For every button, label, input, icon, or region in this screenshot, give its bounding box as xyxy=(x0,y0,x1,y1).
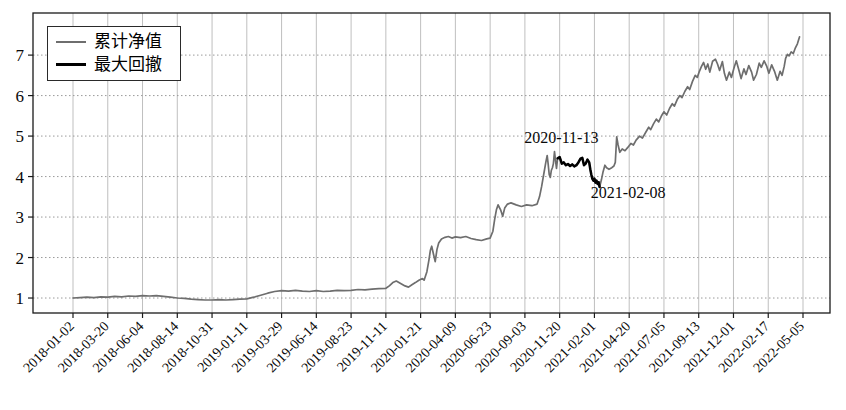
net-value-line-sample xyxy=(56,41,86,43)
y-tick-label: 1 xyxy=(16,289,25,308)
y-tick-label: 7 xyxy=(16,46,25,65)
net-value-line xyxy=(73,37,800,300)
max-drawdown-legend-label: 最大回撤 xyxy=(94,56,162,73)
annotation-drawdown-trough-date: 2021-02-08 xyxy=(591,184,666,202)
y-tick-label: 6 xyxy=(16,87,25,106)
y-tick-label: 3 xyxy=(16,208,25,227)
x-tick-labels: 2018-01-022018-03-202018-06-042018-08-14… xyxy=(20,319,807,376)
line-chart-figure: 2018-01-022018-03-202018-06-042018-08-14… xyxy=(0,0,846,410)
max-drawdown-line xyxy=(558,157,600,187)
y-tick-label: 5 xyxy=(16,127,25,146)
y-tick-label: 2 xyxy=(16,249,25,268)
axis-ticks xyxy=(28,55,803,318)
max-drawdown-line-sample xyxy=(56,63,86,66)
net-value-legend-label: 累计净值 xyxy=(94,33,162,50)
y-tick-label: 4 xyxy=(16,168,25,187)
legend-entry-max-drawdown: 最大回撤 xyxy=(56,53,172,76)
legend-entry-net-value: 累计净值 xyxy=(56,30,172,53)
y-tick-labels: 1234567 xyxy=(16,46,25,308)
annotation-drawdown-peak-date: 2020-11-13 xyxy=(524,129,598,147)
legend: 累计净值 最大回撤 xyxy=(47,26,181,81)
